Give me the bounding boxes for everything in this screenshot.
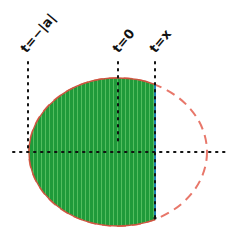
cut-endpoint-dot <box>153 216 156 219</box>
ellipse-diagram: t=−|a| t=0 t=x <box>0 0 236 238</box>
